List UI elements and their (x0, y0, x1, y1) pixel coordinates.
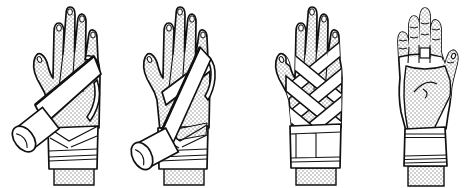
panel-step-3 (276, 7, 342, 185)
forearm (408, 166, 444, 186)
wrist-cuff (404, 127, 447, 166)
bandage-tab (420, 48, 430, 58)
panel-step-1 (8, 7, 101, 185)
panel-step-2 (127, 7, 215, 185)
hand-bandaging-diagram (0, 0, 472, 188)
panel-step-4 (396, 5, 461, 186)
forearm (296, 168, 336, 185)
hand-bandaging-figure (0, 0, 472, 188)
wrist-wrap (48, 126, 98, 185)
